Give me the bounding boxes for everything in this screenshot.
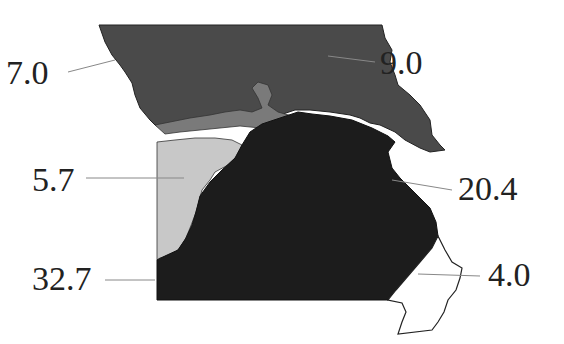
- label-east: 20.4: [458, 172, 518, 206]
- label-southwest: 32.7: [32, 262, 92, 296]
- label-ne: 9.0: [380, 46, 423, 80]
- label-bootheel: 4.0: [488, 258, 531, 292]
- label-west: 5.7: [32, 163, 75, 197]
- label-nw: 7.0: [6, 56, 49, 90]
